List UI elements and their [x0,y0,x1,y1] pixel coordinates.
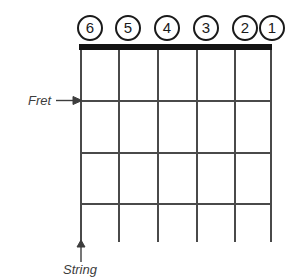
string-line-5 [118,50,120,242]
fret-line-2 [80,152,272,154]
string-line-3 [196,50,198,242]
string-annotation-arrow-icon [74,240,88,262]
string-line-1 [270,50,272,242]
string-number-badge-4: 4 [154,15,180,41]
string-number-badge-3: 3 [193,15,219,41]
string-line-4 [157,50,159,242]
string-line-6 [80,50,82,242]
string-number-badge-1: 1 [259,15,285,41]
fret-annotation-arrow-icon [56,94,82,107]
fret-annotation-label: Fret [28,93,51,108]
string-number-badge-2: 2 [232,15,258,41]
fret-line-1 [80,100,272,102]
string-number-badge-6: 6 [77,15,103,41]
string-line-2 [234,50,236,242]
fretboard-diagram: 6 5 4 3 2 1 Fret String [0,0,301,280]
nut-bar [79,44,272,50]
string-annotation-label: String [63,262,97,277]
fret-line-3 [80,203,272,205]
string-number-badge-5: 5 [115,15,141,41]
